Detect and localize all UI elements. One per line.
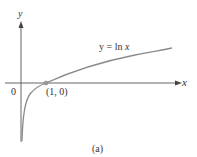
x-axis-label: x [182,76,187,88]
point-label: (1, 0) [46,86,68,97]
figure-caption: (a) [92,143,103,154]
function-label-text: y = ln [99,41,125,52]
ln-curve [22,48,172,141]
y-axis-label: y [18,8,22,19]
x-axis-arrow-icon [175,81,182,86]
function-label: y = ln x [99,41,129,52]
function-label-var: x [125,41,129,52]
ln-graph [0,0,197,157]
x-axis [5,81,182,86]
point-1-0-marker [44,81,48,85]
origin-label: 0 [11,86,16,97]
y-axis-arrow-icon [19,21,24,28]
